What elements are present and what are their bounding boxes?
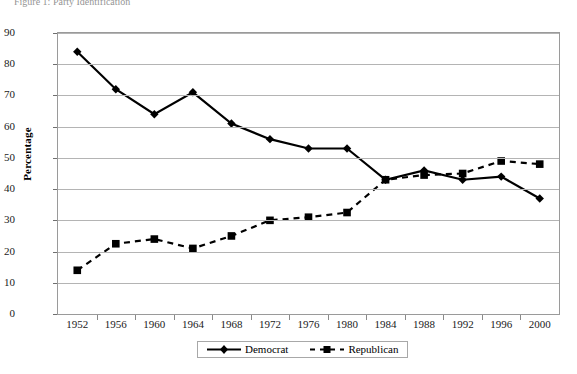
x-axis-tick-label: 1972 bbox=[248, 318, 292, 330]
data-point bbox=[459, 170, 467, 178]
y-axis-tick-label: 90 bbox=[0, 27, 15, 38]
series-layer bbox=[58, 33, 559, 314]
x-axis-tick-label: 1960 bbox=[132, 318, 176, 330]
legend-item-democrat[interactable]: Democrat bbox=[207, 344, 288, 355]
data-point bbox=[382, 176, 390, 184]
x-axis-tick-mark bbox=[482, 315, 483, 320]
y-axis-tick-mark bbox=[53, 220, 57, 221]
x-axis-tick-label: 1952 bbox=[55, 318, 99, 330]
gridline bbox=[58, 189, 559, 190]
data-point bbox=[497, 172, 505, 180]
x-axis-tick-label: 1996 bbox=[479, 318, 523, 330]
data-point bbox=[266, 135, 274, 143]
data-point bbox=[112, 240, 120, 248]
y-axis-tick-label: 40 bbox=[0, 183, 15, 194]
data-point bbox=[73, 266, 81, 274]
x-axis-tick-label: 1968 bbox=[209, 318, 253, 330]
data-point bbox=[536, 194, 544, 202]
democrat-line-swatch bbox=[207, 344, 241, 355]
series-republican bbox=[73, 157, 543, 274]
x-axis-tick-label: 1956 bbox=[94, 318, 138, 330]
data-point bbox=[420, 171, 428, 179]
data-point bbox=[228, 232, 236, 240]
y-axis-tick-mark bbox=[53, 314, 57, 315]
legend-label-democrat: Democrat bbox=[245, 344, 288, 355]
y-axis-tick-mark bbox=[53, 95, 57, 96]
gridline bbox=[58, 95, 559, 96]
legend-item-republican[interactable]: Republican bbox=[310, 344, 398, 355]
y-axis-tick-label: 10 bbox=[0, 277, 15, 288]
x-axis-tick-mark bbox=[328, 315, 329, 320]
plot-area bbox=[57, 32, 560, 315]
data-point bbox=[304, 144, 312, 152]
y-axis-tick-label: 50 bbox=[0, 152, 15, 163]
x-axis-tick-label: 1988 bbox=[402, 318, 446, 330]
y-axis-tick-label: 60 bbox=[0, 121, 15, 132]
x-axis-tick-mark bbox=[97, 315, 98, 320]
series-democrat bbox=[73, 48, 544, 203]
x-axis-tick-label: 1992 bbox=[441, 318, 485, 330]
gridline bbox=[58, 64, 559, 65]
y-axis-tick-mark bbox=[53, 33, 57, 34]
x-axis-tick-label: 1976 bbox=[287, 318, 331, 330]
gridline bbox=[58, 33, 559, 34]
gridline bbox=[58, 283, 559, 284]
x-axis-tick-mark bbox=[212, 315, 213, 320]
y-axis-tick-mark bbox=[53, 158, 57, 159]
y-axis-tick-label: 80 bbox=[0, 58, 15, 69]
x-axis-tick-mark bbox=[366, 315, 367, 320]
chart-legend: Democrat Republican bbox=[197, 341, 408, 358]
y-axis-tick-mark bbox=[53, 189, 57, 190]
data-point bbox=[151, 235, 159, 243]
line-chart: Percentage Democrat Republican 010203040… bbox=[0, 0, 577, 374]
data-point bbox=[536, 160, 544, 168]
republican-line-swatch bbox=[310, 344, 344, 355]
x-axis-tick-mark bbox=[443, 315, 444, 320]
y-axis-tick-label: 0 bbox=[0, 308, 15, 319]
data-point bbox=[343, 209, 351, 217]
x-axis-tick-mark bbox=[251, 315, 252, 320]
y-axis-tick-mark bbox=[53, 252, 57, 253]
x-axis-tick-label: 1984 bbox=[364, 318, 408, 330]
y-axis-tick-label: 20 bbox=[0, 246, 15, 257]
gridline bbox=[58, 220, 559, 221]
y-axis-title: Percentage bbox=[21, 109, 33, 199]
legend-label-republican: Republican bbox=[348, 344, 398, 355]
x-axis-tick-mark bbox=[289, 315, 290, 320]
x-axis-tick-mark bbox=[135, 315, 136, 320]
x-axis-tick-mark bbox=[520, 315, 521, 320]
x-axis-tick-label: 2000 bbox=[518, 318, 562, 330]
y-axis-tick-mark bbox=[53, 64, 57, 65]
x-axis-tick-mark bbox=[405, 315, 406, 320]
y-axis-tick-mark bbox=[53, 283, 57, 284]
y-axis-tick-label: 70 bbox=[0, 89, 15, 100]
gridline bbox=[58, 252, 559, 253]
gridline bbox=[58, 127, 559, 128]
series-line bbox=[77, 52, 539, 199]
y-axis-tick-mark bbox=[53, 127, 57, 128]
x-axis-tick-label: 1964 bbox=[171, 318, 215, 330]
x-axis-tick-label: 1980 bbox=[325, 318, 369, 330]
x-axis-tick-mark bbox=[174, 315, 175, 320]
gridline bbox=[58, 158, 559, 159]
y-axis-tick-label: 30 bbox=[0, 214, 15, 225]
